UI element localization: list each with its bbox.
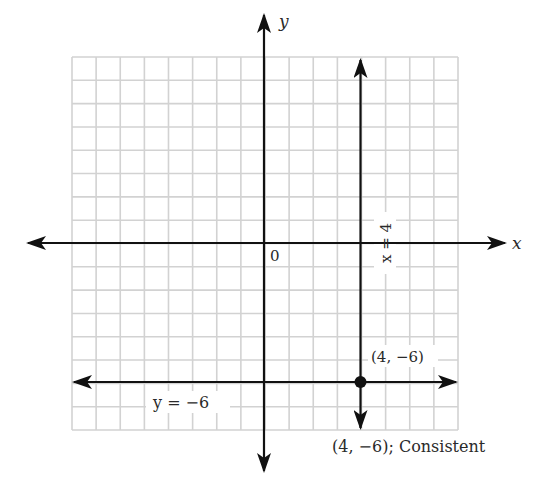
y-axis-label: y [278, 11, 289, 31]
y-equals-neg6-label: y = −6 [152, 393, 209, 412]
origin-label: 0 [270, 247, 280, 265]
point-label: (4, −6) [371, 348, 424, 366]
x-equals-4-label: x = 4 [377, 223, 395, 263]
x-axis-label: x [512, 233, 522, 253]
intersection-point [355, 376, 367, 388]
caption: (4, −6); Consistent [332, 437, 486, 456]
coordinate-graph: y x 0 x = 4 y = −6 (4, −6) (4, −6); Cons… [0, 0, 535, 478]
